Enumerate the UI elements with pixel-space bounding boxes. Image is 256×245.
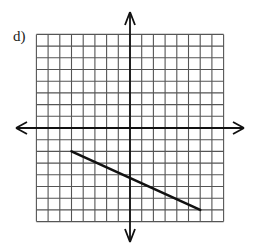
line-segment (72, 151, 201, 210)
data-series (72, 151, 201, 210)
coordinate-plane (0, 0, 256, 245)
